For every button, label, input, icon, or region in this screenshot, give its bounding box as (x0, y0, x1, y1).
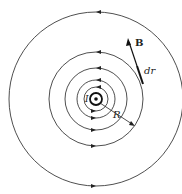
dr-label: dr (144, 65, 156, 76)
b-field-label: B (135, 37, 143, 48)
ampere-law-diagram: R I B dr (0, 0, 182, 194)
current-label: I (84, 94, 89, 104)
radius-arrowhead (129, 121, 135, 126)
current-out-of-page-dot (94, 97, 98, 101)
b-field-arrowhead (126, 38, 131, 46)
radius-label: R (112, 109, 121, 120)
dr-vector (137, 66, 143, 84)
